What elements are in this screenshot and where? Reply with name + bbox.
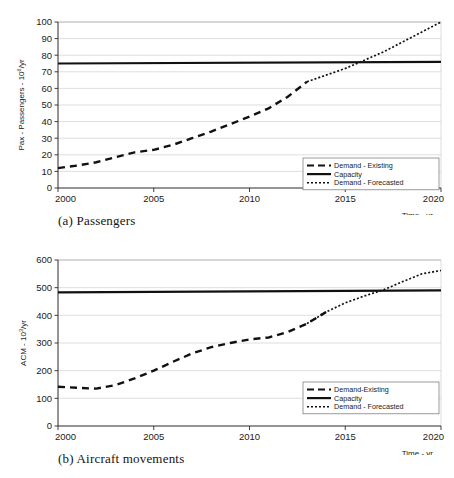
chart-passengers: 0102030405060708090100200020052010201520… [0, 0, 454, 215]
y-tick-label: 20 [41, 149, 52, 160]
y-tick-label: 70 [41, 66, 52, 77]
y-tick-label: 0 [47, 420, 52, 431]
svg-text:ACM - 103/yr: ACM - 103/yr [18, 320, 28, 366]
series-dotted [307, 271, 441, 324]
figure-caption-b: (b) Aircraft movements [58, 451, 184, 467]
y-tick-label: 100 [36, 393, 52, 404]
x-tick-label: 2000 [55, 193, 76, 204]
y-tick-label: 400 [36, 310, 52, 321]
figure-caption-a: (a) Passengers [58, 213, 136, 229]
x-tick-label: 2005 [143, 431, 164, 442]
y-tick-label: 80 [41, 50, 52, 61]
x-tick-label: 2010 [239, 193, 260, 204]
y-axis-title: ACM - 103/yr [18, 320, 28, 366]
y-tick-label: 40 [41, 116, 52, 127]
figure-panel-aircraft-movements: 010020030040050060020002005201020152020A… [0, 240, 454, 478]
x-tick-label: 2005 [143, 193, 164, 204]
y-tick-label: 60 [41, 83, 52, 94]
series-solid [58, 290, 441, 292]
x-tick-label: 2020 [423, 193, 444, 204]
y-tick-label: 0 [47, 182, 52, 193]
x-axis-title: Time - yr [402, 211, 434, 215]
figure-panel-passengers: 0102030405060708090100200020052010201520… [0, 0, 454, 240]
passengers-chart-svg: 0102030405060708090100200020052010201520… [0, 0, 454, 215]
chart-aircraft-movements: 010020030040050060020002005201020152020A… [0, 240, 454, 455]
y-tick-label: 30 [41, 133, 52, 144]
chart-legend: Demand - ExistingCapacityDemand - Foreca… [303, 158, 439, 190]
series-dashed [58, 312, 326, 389]
y-tick-label: 500 [36, 282, 52, 293]
legend-label: Demand - Forecasted [334, 178, 404, 187]
series-dotted [307, 22, 441, 82]
y-tick-label: 200 [36, 365, 52, 376]
y-tick-label: 300 [36, 337, 52, 348]
series-dashed [58, 82, 307, 168]
y-tick-label: 90 [41, 33, 52, 44]
x-tick-label: 2015 [335, 431, 356, 442]
x-tick-label: 2000 [55, 431, 76, 442]
y-tick-label: 50 [41, 99, 52, 110]
x-tick-label: 2015 [335, 193, 356, 204]
series-solid [58, 62, 441, 64]
y-tick-label: 10 [41, 166, 52, 177]
y-axis-title: Pax - Passengers - 106/yr [16, 59, 26, 151]
svg-text:Pax - Passengers - 106/yr: Pax - Passengers - 106/yr [16, 59, 26, 151]
x-tick-label: 2010 [239, 431, 260, 442]
x-axis-title: Time - yr [402, 449, 434, 455]
chart-legend: Demand-ExistingCapacityDemand - Forecast… [303, 382, 439, 414]
y-tick-label: 600 [36, 254, 52, 265]
y-tick-label: 100 [36, 16, 52, 27]
aircraft-movements-chart-svg: 010020030040050060020002005201020152020A… [0, 240, 454, 455]
x-tick-label: 2020 [423, 431, 444, 442]
legend-label: Demand - Forecasted [334, 402, 404, 411]
